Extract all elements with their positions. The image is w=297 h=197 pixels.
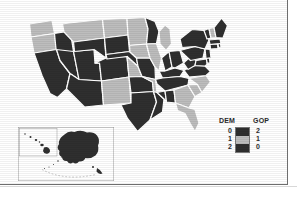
state-CT[interactable] (210, 44, 218, 49)
state-MD[interactable] (195, 59, 207, 66)
state-MN[interactable] (127, 18, 148, 46)
legend-gop-value-0: 2 (256, 127, 266, 135)
legend-left-values: 0 1 2 (222, 127, 232, 151)
us-choropleth-map[interactable] (20, 14, 240, 144)
state-MI[interactable] (159, 25, 172, 51)
legend-gop-value-1: 1 (256, 135, 266, 143)
legend-header-dem: DEM (219, 117, 235, 124)
legend-right-values: 2 1 0 (256, 127, 266, 151)
alaska-hawaii-inset[interactable] (18, 127, 114, 181)
legend-swatch-0[interactable] (236, 128, 249, 136)
legend-header-gop: GOP (253, 117, 269, 124)
map-legend[interactable]: DEM GOP 0 1 2 2 1 0 (218, 117, 280, 159)
hawaii-inset-box (20, 129, 58, 157)
map-stage: DEM GOP 0 1 2 2 1 0 (0, 0, 288, 184)
page-frame-right-rule (287, 0, 288, 185)
state-NM[interactable] (102, 77, 132, 105)
state-NJ[interactable] (205, 49, 211, 59)
state-FL[interactable] (176, 103, 200, 132)
legend-dem-value-0: 0 (222, 127, 232, 135)
legend-swatch-1[interactable] (236, 136, 249, 144)
legend-swatch-2[interactable] (236, 144, 249, 152)
figure-page: DEM GOP 0 1 2 2 1 0 (0, 0, 297, 197)
legend-swatch-column[interactable] (235, 127, 250, 153)
page-frame-bottom-rule (0, 184, 288, 185)
legend-dem-value-1: 1 (222, 135, 232, 143)
legend-dem-value-2: 2 (222, 143, 232, 151)
state-OH[interactable] (169, 51, 184, 69)
page-frame-bottom-shadow (0, 186, 297, 187)
legend-gop-value-2: 0 (256, 143, 266, 151)
state-ME[interactable] (214, 18, 228, 38)
